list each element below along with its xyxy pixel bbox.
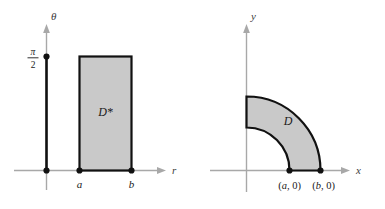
tick-label-a: a xyxy=(77,178,83,190)
left-panel-rtheta-plane: θ r π 2 D* a b xyxy=(0,0,192,209)
region-d-quarter-annulus xyxy=(247,97,321,171)
x-axis-label: x xyxy=(355,164,361,176)
theta-axis-arrowhead xyxy=(43,24,50,33)
polar-transformation-figure: θ r π 2 D* a b xyxy=(0,0,385,209)
point-dot-a-zero xyxy=(286,167,292,173)
coord-label-b-zero: (b, 0) xyxy=(312,180,335,192)
right-panel-xy-plane: y x D (a, 0) (b, 0) xyxy=(192,0,385,209)
point-dot-b xyxy=(128,167,134,173)
r-axis-label: r xyxy=(172,164,177,176)
y-axis-label: y xyxy=(250,10,256,22)
tick-label-b: b xyxy=(129,178,135,190)
x-axis-arrowhead xyxy=(341,167,350,174)
coord-a-rest: , 0) xyxy=(287,180,302,192)
theta-axis: θ xyxy=(43,10,57,190)
region-d-label: D xyxy=(283,114,293,128)
point-dot-a xyxy=(76,167,82,173)
pi-over-two-denominator: 2 xyxy=(31,60,36,70)
coord-label-a-zero: (a, 0) xyxy=(278,180,301,192)
x-axis: x xyxy=(210,164,361,176)
y-axis-arrowhead xyxy=(243,24,250,33)
point-dot-origin xyxy=(43,167,49,173)
pi-over-two-tick-label: π 2 xyxy=(28,47,39,70)
region-d-star-label: D* xyxy=(97,105,113,119)
pi-over-two-numerator: π xyxy=(31,47,36,57)
theta-axis-label: θ xyxy=(51,10,57,22)
coord-b-rest: , 0) xyxy=(321,180,336,192)
r-axis-arrowhead xyxy=(157,167,166,174)
point-dot-pi-over-two xyxy=(43,53,49,59)
point-dot-b-zero xyxy=(317,167,323,173)
